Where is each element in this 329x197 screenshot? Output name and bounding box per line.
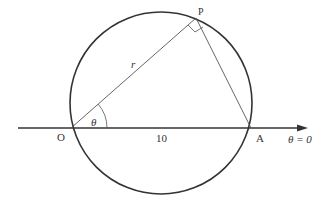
circle [70, 12, 252, 194]
label-A: A [256, 132, 264, 144]
line-OP [71, 18, 196, 128]
arrow-head-icon [297, 125, 308, 132]
label-P: P [198, 6, 204, 17]
label-axis: θ = 0 [288, 133, 312, 145]
line-PA [196, 18, 251, 128]
diagram: O A P r θ 10 θ = 0 [0, 0, 329, 197]
angle-arc [98, 104, 107, 128]
right-angle-marker [188, 25, 203, 32]
label-r: r [131, 58, 136, 70]
label-length: 10 [156, 132, 168, 144]
label-theta: θ [91, 116, 97, 128]
label-O: O [57, 131, 65, 143]
